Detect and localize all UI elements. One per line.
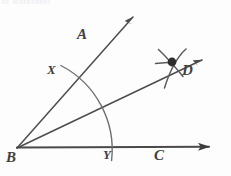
- label-point-D: D: [182, 63, 193, 78]
- construction-canvas: [0, 0, 231, 176]
- label-point-Y: Y: [103, 148, 111, 161]
- ray-BA: [17, 17, 133, 148]
- label-point-A: A: [77, 27, 87, 42]
- ray-BD: [17, 60, 202, 148]
- label-point-B: B: [6, 150, 16, 165]
- rays-group: [17, 17, 209, 148]
- geometry-figure: of worksheet A X D B Y C: [0, 0, 231, 176]
- label-point-C: C: [154, 148, 164, 163]
- label-point-X: X: [47, 63, 56, 76]
- point-D-dot: [168, 58, 177, 67]
- ray-BC: [17, 147, 209, 148]
